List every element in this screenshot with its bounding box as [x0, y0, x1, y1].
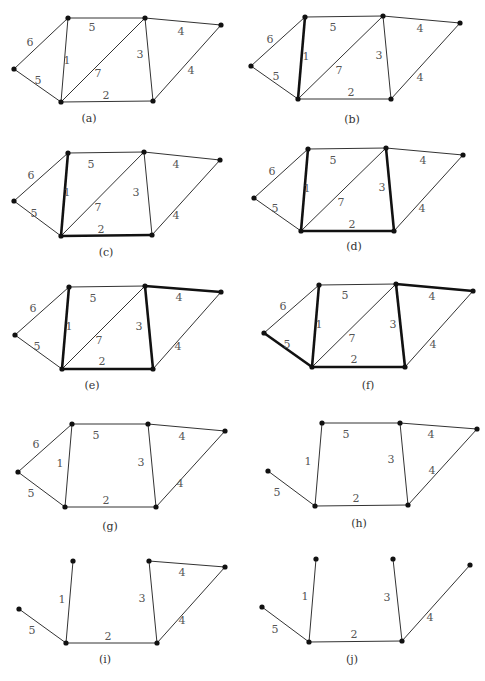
- edge-weight-label: 2: [349, 218, 356, 231]
- vertex-L: [248, 63, 253, 68]
- vertex-TL: [65, 15, 70, 20]
- vertex-L: [259, 604, 264, 609]
- edge-weight-label: 4: [175, 340, 182, 353]
- edge-weight-label: 4: [417, 22, 424, 35]
- edge-weight-label: 4: [178, 25, 185, 38]
- vertex-L: [12, 332, 17, 337]
- vertex-BL: [295, 96, 300, 101]
- vertex-L: [265, 468, 270, 473]
- vertex-L: [11, 66, 16, 71]
- edge-L-TL: [264, 285, 319, 333]
- edge-weight-label: 7: [338, 196, 345, 209]
- edge-weight-label: 3: [390, 318, 397, 331]
- edge-TR-R: [145, 18, 221, 25]
- vertex-TR: [145, 421, 150, 426]
- edge-weight-label: 4: [179, 614, 186, 627]
- edge-weight-label: 5: [89, 21, 96, 34]
- selected-edge-TR-BR: [396, 284, 405, 367]
- edge-weight-label: 5: [273, 70, 280, 83]
- edge-TR-BR: [383, 16, 391, 99]
- vertex-TR: [393, 281, 398, 286]
- graph-panel-c: 651573244(c): [11, 149, 222, 259]
- edge-weight-label: 2: [353, 492, 360, 505]
- graph-panel-j: 51324(j): [259, 556, 472, 666]
- edge-weight-label: 7: [96, 334, 103, 347]
- vertex-R: [470, 288, 475, 293]
- edge-weight-label: 4: [417, 71, 424, 84]
- edge-weight-label: 3: [138, 456, 145, 469]
- edge-TL-TR: [305, 16, 383, 17]
- edge-BR-R: [402, 565, 470, 641]
- edge-BL-BR: [309, 641, 402, 642]
- edge-weight-label: 6: [280, 300, 287, 313]
- vertex-R: [467, 562, 472, 567]
- edge-BL-TR: [301, 148, 386, 231]
- edge-weight-label: 5: [284, 338, 291, 351]
- graph-panel-i: 514324(i): [16, 558, 227, 666]
- edge-weight-label: 4: [173, 158, 180, 171]
- graph-panel-d: 651573244(d): [251, 145, 465, 253]
- vertex-BR: [149, 232, 154, 237]
- panel-caption: (a): [81, 112, 96, 125]
- edge-weight-label: 3: [384, 591, 391, 604]
- edge-TL-BL: [315, 423, 322, 506]
- edge-L-TL: [254, 149, 308, 198]
- edge-weight-label: 6: [28, 169, 35, 182]
- edge-weight-label: 4: [176, 291, 183, 304]
- edge-TR-BR: [400, 423, 408, 505]
- kruskal-diagram-canvas: 651573244(a)651573244(b)651573244(c)6515…: [0, 0, 485, 681]
- vertex-BR: [388, 96, 393, 101]
- edge-weight-label: 4: [427, 611, 434, 624]
- vertex-TL: [313, 556, 318, 561]
- vertex-BR: [399, 638, 404, 643]
- edge-weight-label: 1: [64, 186, 71, 199]
- edge-weight-label: 4: [430, 338, 437, 351]
- panel-caption: (h): [351, 517, 367, 530]
- edge-weight-label: 1: [64, 54, 71, 67]
- vertex-BL: [63, 640, 68, 645]
- edge-weight-label: 2: [103, 89, 110, 102]
- edge-TR-BR: [144, 152, 152, 235]
- vertex-BL: [309, 364, 314, 369]
- edge-TR-BR: [148, 424, 156, 507]
- edge-weight-label: 3: [388, 453, 395, 466]
- edge-weight-label: 4: [419, 202, 426, 215]
- graph-panel-b: 651573244(b): [248, 13, 462, 126]
- panel-caption: (f): [362, 379, 375, 392]
- vertex-R: [217, 157, 222, 162]
- edge-weight-label: 5: [93, 429, 100, 442]
- vertex-R: [474, 426, 479, 431]
- edge-weight-label: 5: [88, 158, 95, 171]
- panel-caption: (c): [99, 246, 114, 259]
- vertex-L: [15, 469, 20, 474]
- edge-weight-label: 5: [342, 289, 349, 302]
- edge-weight-label: 5: [28, 487, 35, 500]
- edge-BR-R: [391, 23, 460, 99]
- vertex-BR: [154, 640, 159, 645]
- selected-edge-TR-BR: [386, 148, 394, 231]
- graph-panel-a: 651573244(a): [11, 15, 223, 125]
- edge-weight-label: 4: [173, 209, 180, 222]
- edge-weight-label: 2: [351, 353, 358, 366]
- vertex-BR: [150, 366, 155, 371]
- edge-TR-BR: [145, 18, 153, 101]
- panel-caption: (g): [102, 520, 118, 533]
- vertex-TL: [66, 284, 71, 289]
- edge-weight-label: 2: [105, 630, 112, 643]
- vertex-R: [222, 428, 227, 433]
- edge-weight-label: 5: [31, 207, 38, 220]
- edge-weight-label: 3: [136, 320, 143, 333]
- vertex-R: [460, 152, 465, 157]
- vertex-R: [218, 289, 223, 294]
- edge-weight-label: 7: [336, 64, 343, 77]
- vertex-TL: [302, 14, 307, 19]
- edge-weight-label: 1: [316, 318, 323, 331]
- edge-TL-TR: [68, 152, 144, 153]
- edge-weight-label: 5: [29, 624, 36, 637]
- edge-weight-label: 6: [33, 438, 40, 451]
- edge-weight-label: 6: [269, 165, 276, 178]
- edge-weight-label: 4: [179, 566, 186, 579]
- graph-panel-e: 651574324(e): [12, 283, 223, 392]
- edge-weight-label: 1: [66, 320, 73, 333]
- edge-BR-R: [156, 431, 225, 507]
